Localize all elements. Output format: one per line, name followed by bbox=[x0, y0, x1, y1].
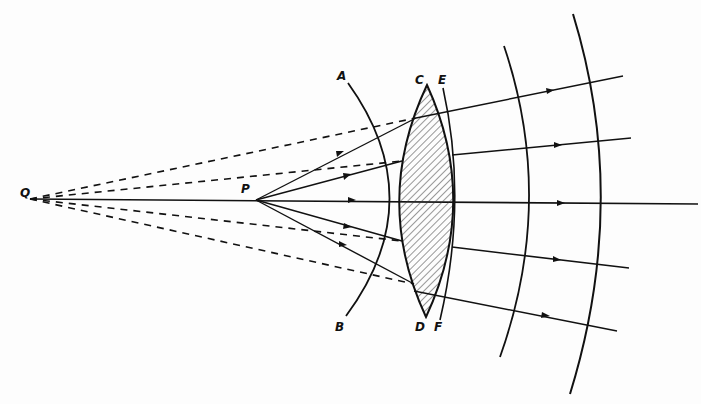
label-d: D bbox=[415, 320, 425, 334]
lens-diagram: Q P A B C E D F bbox=[0, 0, 701, 404]
label-e: E bbox=[438, 73, 447, 87]
label-c: C bbox=[415, 73, 424, 87]
label-b: B bbox=[335, 320, 344, 334]
wavefront-outer-1 bbox=[500, 46, 529, 357]
label-p: P bbox=[241, 182, 250, 196]
label-q: Q bbox=[20, 186, 30, 200]
label-f: F bbox=[434, 320, 443, 334]
diagram-canvas: Q P A B C E D F bbox=[0, 0, 701, 404]
optical-axis bbox=[30, 199, 698, 204]
lens-cd bbox=[399, 85, 453, 317]
label-a: A bbox=[336, 69, 346, 83]
